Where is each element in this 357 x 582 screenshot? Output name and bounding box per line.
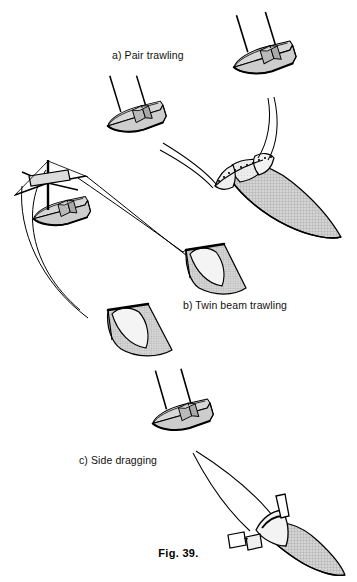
panel-label-c: c) Side dragging [79,454,157,466]
trawling-methods-diagram [0,0,357,582]
panel-label-a: a) Pair trawling [112,49,184,61]
figure-container: a) Pair trawling b) Twin beam trawling c… [0,0,357,582]
figure-caption: Fig. 39. [0,547,357,559]
figure-background [0,0,357,582]
panel-label-b: b) Twin beam trawling [183,299,287,311]
